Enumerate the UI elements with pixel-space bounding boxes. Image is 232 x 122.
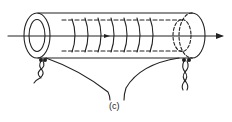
axis-arrowhead: [216, 33, 224, 39]
left-twisted-lead-2: [38, 61, 44, 78]
left-terminal-1: [39, 58, 43, 62]
right-twisted-lead-2: [183, 61, 188, 90]
right-terminal-1: [182, 58, 186, 62]
right-terminal-2: [187, 58, 191, 62]
inner-arrowhead: [104, 34, 110, 38]
helical-coil: [72, 18, 153, 52]
right-lead-wire: [124, 58, 179, 100]
left-terminal-2: [43, 58, 47, 62]
figure-label: (c): [109, 101, 120, 111]
left-lead-wire: [46, 58, 110, 100]
